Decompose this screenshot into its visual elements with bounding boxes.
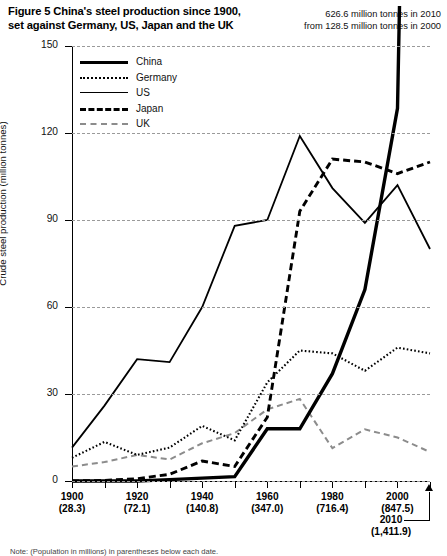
x-tick-1970 — [300, 482, 301, 488]
x-label-year: 1940 — [171, 491, 233, 503]
x-label-population: (140.8) — [171, 503, 233, 515]
legend-item-china[interactable]: China — [80, 54, 230, 70]
x-tick-label-1920: 1920(72.1) — [106, 491, 168, 515]
x-tick-1960 — [267, 482, 268, 488]
x-tick-label-1980: 1980(716.4) — [301, 491, 363, 515]
legend-label-germany: Germany — [136, 70, 177, 85]
x-tick-1920 — [137, 482, 138, 488]
legend: ChinaGermanyUSJapanUK — [80, 54, 230, 132]
annotation-arrow-icon — [425, 484, 433, 491]
gridline-y-60 — [72, 307, 430, 308]
legend-label-japan: Japan — [136, 101, 163, 116]
x-tick-1940 — [202, 482, 203, 488]
y-axis-title: Crude steel production (million tonnes) — [0, 24, 8, 384]
y-tick-label-30: 30 — [24, 387, 58, 398]
y-tick-90 — [65, 220, 72, 221]
annotation-connector-horizontal — [404, 520, 430, 521]
x-label-year: 1980 — [301, 491, 363, 503]
legend-swatch-germany — [80, 77, 128, 79]
legend-item-japan[interactable]: Japan — [80, 101, 230, 117]
x-tick-1950 — [235, 482, 236, 488]
y-tick-label-90: 90 — [24, 213, 58, 224]
series-line-germany — [72, 348, 430, 458]
x-tick-1900 — [72, 482, 73, 488]
gridline-y-90 — [72, 220, 430, 221]
series-line-us — [72, 136, 430, 448]
x-tick-label-2000: 2000(847.5) — [366, 491, 428, 515]
y-tick-label-150: 150 — [24, 39, 58, 50]
x-tick-label-1900: 1900(28.3) — [41, 491, 103, 515]
annotation-2010-population: (1,411.9) — [352, 526, 430, 538]
x-tick-1980 — [332, 482, 333, 488]
legend-label-china: China — [136, 54, 162, 69]
y-tick-60 — [65, 307, 72, 308]
legend-item-us[interactable]: US — [80, 85, 230, 101]
x-label-year: 2000 — [366, 491, 428, 503]
y-tick-150 — [65, 46, 72, 47]
x-label-population: (28.3) — [41, 503, 103, 515]
legend-swatch-china — [80, 61, 128, 64]
x-tick-label-1960: 1960(347.0) — [236, 491, 298, 515]
x-tick-1930 — [170, 482, 171, 488]
x-tick-label-1940: 1940(140.8) — [171, 491, 233, 515]
x-tick-1990 — [365, 482, 366, 488]
legend-label-us: US — [136, 85, 150, 100]
gridline-y-0 — [72, 481, 430, 482]
legend-swatch-us — [80, 92, 128, 93]
legend-item-uk[interactable]: UK — [80, 116, 230, 132]
x-label-year: 1920 — [106, 491, 168, 503]
y-tick-label-120: 120 — [24, 126, 58, 137]
gridline-y-30 — [72, 394, 430, 395]
legend-item-germany[interactable]: Germany — [80, 70, 230, 86]
y-tick-0 — [65, 481, 72, 482]
x-label-year: 1900 — [41, 491, 103, 503]
legend-swatch-uk — [80, 123, 128, 125]
y-tick-120 — [65, 133, 72, 134]
gridline-y-150 — [72, 46, 430, 47]
y-tick-label-60: 60 — [24, 300, 58, 311]
x-label-year: 1960 — [236, 491, 298, 503]
gridline-y-120 — [72, 133, 430, 134]
legend-label-uk: UK — [136, 116, 150, 131]
y-tick-label-0: 0 — [24, 474, 58, 485]
series-line-uk — [72, 399, 430, 467]
legend-swatch-japan — [80, 108, 128, 111]
annotation-connector-vertical — [429, 492, 430, 521]
x-label-population: (72.1) — [106, 503, 168, 515]
y-tick-30 — [65, 394, 72, 395]
x-tick-2000 — [397, 482, 398, 488]
annotation-2010: 2010 (1,411.9) — [352, 514, 430, 538]
x-tick-1910 — [105, 482, 106, 488]
x-label-population: (347.0) — [236, 503, 298, 515]
figure-footnote: Note: (Population in millions) in parent… — [10, 547, 430, 556]
